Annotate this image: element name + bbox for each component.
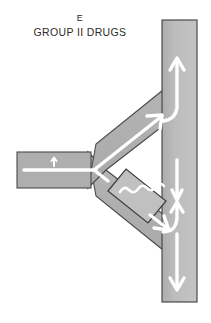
pathway-diagram [0, 0, 211, 323]
figure-panel: E GROUP II DRUGS [0, 0, 211, 323]
